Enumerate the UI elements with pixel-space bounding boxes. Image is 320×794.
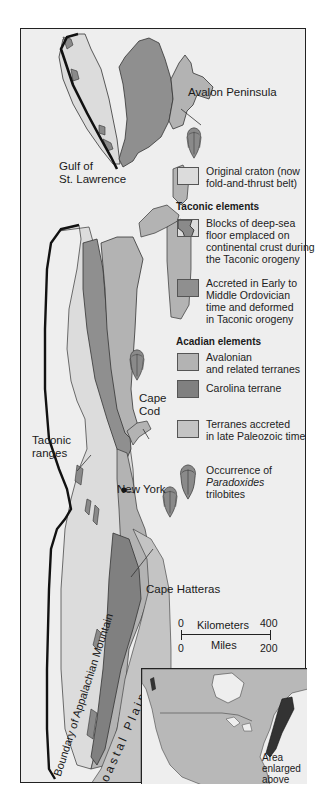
swatch-craton xyxy=(177,167,199,185)
label-cape-cod-line2: Cod xyxy=(139,405,160,418)
swatch-avalonian xyxy=(177,353,199,371)
scale-bar: 0 Kilometers 400 0 Miles 200 xyxy=(178,617,288,667)
label-gulf-line1: Gulf of xyxy=(59,160,93,173)
trilobite-icon xyxy=(179,464,197,500)
legend-item-trilobite: Occurrence of Paradoxides trilobites xyxy=(177,464,320,508)
legend-item-accreted: Accreted in Early to Middle Ordovician t… xyxy=(177,277,320,333)
trilobite-icon xyxy=(187,128,201,158)
legend-header-taconic: Taconic elements xyxy=(176,201,259,212)
scale-mi-label: Miles xyxy=(211,639,237,651)
legend-item-craton: Original craton (now fold-and-thrust bel… xyxy=(177,165,320,205)
label-cape-cod-line1: Cape xyxy=(139,392,167,405)
inset-caption-line3: above xyxy=(262,774,289,784)
inset-caption-line1: Area xyxy=(262,752,283,763)
label-taconic-line1: Taconic xyxy=(32,434,71,447)
scale-mi-end: 200 xyxy=(260,642,278,654)
label-avalon-peninsula: Avalon Peninsula xyxy=(188,86,277,99)
scale-km-end: 400 xyxy=(260,617,278,629)
legend-item-deep-sea: Blocks of deep-sea floor emplaced on con… xyxy=(177,217,320,273)
swatch-accreted xyxy=(177,279,199,297)
label-cape-hatteras: Cape Hatteras xyxy=(146,583,220,596)
label-taconic-line2: ranges xyxy=(32,447,67,460)
legend-item-late-paleozoic: Terranes accreted in late Paleozoic time xyxy=(177,418,320,458)
legend-header-acadian: Acadian elements xyxy=(176,336,261,347)
swatch-late-paleozoic xyxy=(177,420,199,438)
label-new-york: New York xyxy=(117,483,166,496)
inset-caption-line2: enlarged xyxy=(262,763,301,774)
label-gulf-line2: St. Lawrence xyxy=(59,173,126,186)
swatch-carolina xyxy=(177,380,199,398)
inset-north-america: Area enlarged above xyxy=(141,668,307,784)
swatch-deep-sea xyxy=(177,219,199,237)
legend-item-carolina: Carolina terrane xyxy=(177,378,320,418)
scale-mi-start: 0 xyxy=(178,642,184,654)
scale-km-start: 0 xyxy=(178,617,184,629)
